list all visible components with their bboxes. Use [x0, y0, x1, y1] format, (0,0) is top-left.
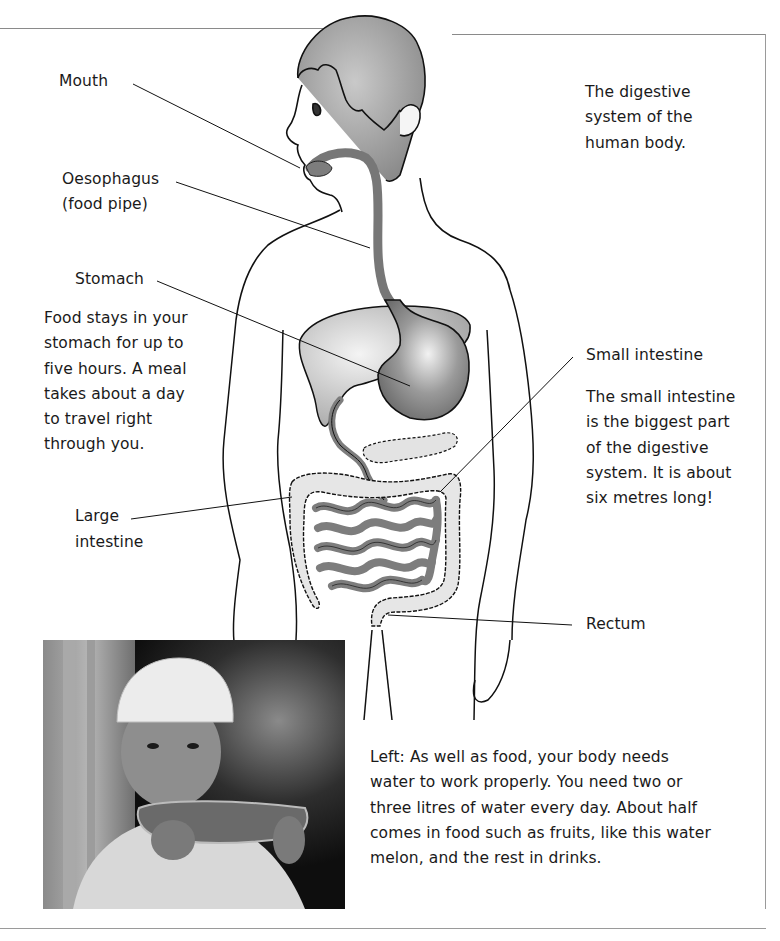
label-mouth: Mouth	[59, 70, 108, 92]
note-line: is the biggest part	[586, 410, 735, 435]
label-oesophagus: Oesophagus	[62, 168, 159, 190]
label-rectum: Rectum	[586, 613, 646, 635]
small-intestine	[316, 500, 438, 588]
diagram-title: The digestive system of the human body.	[585, 80, 693, 156]
small-intestine-note: The small intestine is the biggest part …	[586, 385, 735, 511]
note-line: Food stays in your	[44, 306, 188, 331]
note-line: six metres long!	[586, 486, 735, 511]
note-line: takes about a day	[44, 382, 188, 407]
note-line: system. It is about	[586, 461, 735, 486]
label-large-intestine: Large	[75, 505, 119, 527]
stomach-note: Food stays in your stomach for up to fiv…	[44, 306, 188, 458]
note-line: stomach for up to	[44, 331, 188, 356]
caption-line: water to work properly. You need two or	[370, 770, 711, 795]
note-line: The small intestine	[586, 385, 735, 410]
caption-line: comes in food such as fruits, like this …	[370, 821, 711, 846]
caption-line: melon, and the rest in drinks.	[370, 846, 711, 871]
mouth-cavity	[306, 161, 332, 176]
pancreas	[363, 433, 457, 463]
note-line: five hours. A meal	[44, 357, 188, 382]
title-line: human body.	[585, 131, 693, 156]
title-line: system of the	[585, 105, 693, 130]
caption-line: three litres of water every day. About h…	[370, 796, 711, 821]
caption-line: Left: As well as food, your body needs	[370, 745, 711, 770]
label-large-intestine-sub: intestine	[75, 531, 143, 553]
note-line: to travel right	[44, 407, 188, 432]
label-small-intestine: Small intestine	[586, 344, 703, 366]
note-line: of the digestive	[586, 436, 735, 461]
label-stomach: Stomach	[75, 268, 144, 290]
note-line: through you.	[44, 432, 188, 457]
photo-boy-eating-watermelon	[43, 640, 345, 909]
label-oesophagus-sub: (food pipe)	[62, 193, 148, 215]
photo-caption: Left: As well as food, your body needs w…	[370, 745, 711, 871]
title-line: The digestive	[585, 80, 693, 105]
